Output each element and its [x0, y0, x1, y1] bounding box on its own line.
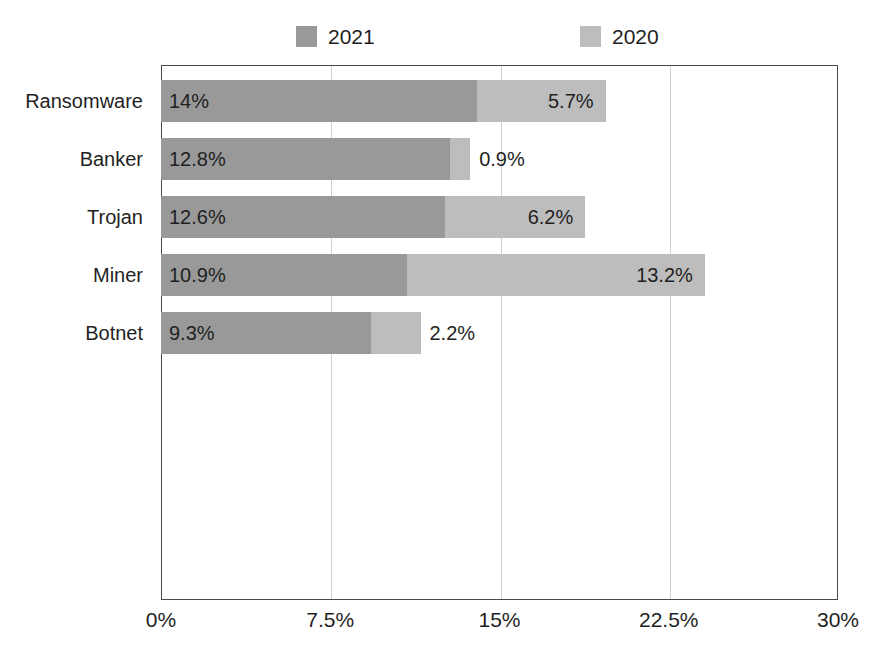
bar-segment-2021[interactable]: 14% — [161, 80, 477, 122]
x-tick-label: 22.5% — [639, 608, 699, 632]
bar-value-label-2020: 0.9% — [470, 149, 525, 169]
bar-value-label-2021: 10.9% — [161, 265, 226, 285]
bar-row[interactable]: 9.3%2.2% — [161, 312, 838, 354]
bar-segment-2021[interactable]: 12.6% — [161, 196, 445, 238]
bar-value-label-2021: 9.3% — [161, 323, 215, 343]
bar-row[interactable]: 12.6%6.2% — [161, 196, 838, 238]
bar-value-label-2021: 14% — [161, 91, 209, 111]
x-tick-label: 7.5% — [306, 608, 354, 632]
bar-value-label-2020: 2.2% — [421, 323, 476, 343]
legend-item-2020: 2020 — [580, 26, 659, 47]
bar-segment-2020[interactable]: 2.2% — [371, 312, 421, 354]
legend-swatch-2021 — [296, 26, 317, 47]
category-label-miner: Miner — [93, 254, 143, 296]
bars-layer: 14%5.7%12.8%0.9%12.6%6.2%10.9%13.2%9.3%2… — [161, 65, 838, 600]
bar-row[interactable]: 10.9%13.2% — [161, 254, 838, 296]
value-axis: 0%7.5%15%22.5%30% — [0, 608, 891, 642]
bar-row[interactable]: 12.8%0.9% — [161, 138, 838, 180]
bar-segment-2020[interactable]: 5.7% — [477, 80, 606, 122]
bar-row[interactable]: 14%5.7% — [161, 80, 838, 122]
legend-item-2021: 2021 — [296, 26, 375, 47]
bar-segment-2021[interactable]: 12.8% — [161, 138, 450, 180]
legend-label-2021: 2021 — [328, 26, 375, 47]
x-tick-label: 15% — [478, 608, 520, 632]
legend-label-2020: 2020 — [612, 26, 659, 47]
x-tick-label: 0% — [146, 608, 176, 632]
chart-legend: 2021 2020 — [0, 26, 891, 60]
bar-segment-2021[interactable]: 9.3% — [161, 312, 371, 354]
category-axis: RansomwareBankerTrojanMinerBotnet — [0, 65, 153, 600]
category-label-trojan: Trojan — [87, 196, 143, 238]
x-tick-label: 30% — [817, 608, 859, 632]
bar-segment-2020[interactable]: 6.2% — [445, 196, 585, 238]
bar-value-label-2020: 6.2% — [528, 207, 586, 227]
bar-value-label-2020: 5.7% — [548, 91, 606, 111]
bar-segment-2020[interactable]: 13.2% — [407, 254, 705, 296]
category-label-banker: Banker — [80, 138, 143, 180]
bar-value-label-2021: 12.6% — [161, 207, 226, 227]
category-label-botnet: Botnet — [85, 312, 143, 354]
bar-value-label-2020: 13.2% — [636, 265, 705, 285]
bar-segment-2020[interactable]: 0.9% — [450, 138, 470, 180]
bar-segment-2021[interactable]: 10.9% — [161, 254, 407, 296]
bar-value-label-2021: 12.8% — [161, 149, 226, 169]
category-label-ransomware: Ransomware — [25, 80, 143, 122]
legend-swatch-2020 — [580, 26, 601, 47]
